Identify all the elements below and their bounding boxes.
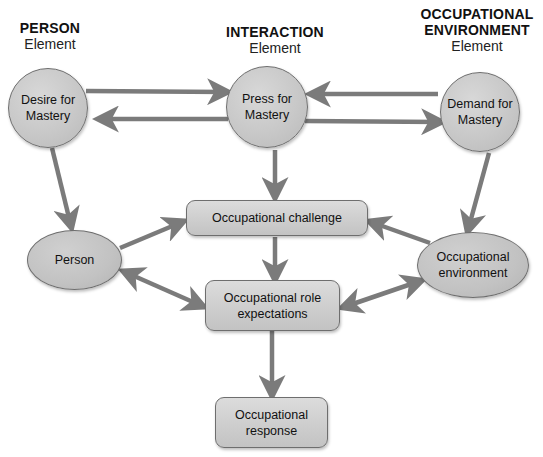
header-interaction-title: INTERACTION: [215, 24, 335, 40]
node-desire-line2: Mastery: [21, 108, 75, 124]
node-desire-line1: Desire for: [21, 92, 75, 108]
node-person-label: Person: [55, 252, 95, 268]
arrow-person-to-challenge: [120, 222, 182, 248]
node-occupational-challenge: Occupational challenge: [186, 200, 368, 236]
node-challenge-label: Occupational challenge: [212, 210, 342, 226]
node-occupational-response: Occupational response: [215, 397, 328, 448]
occupational-adaptation-diagram: PERSON Element INTERACTION Element OCCUP…: [0, 0, 543, 457]
arrow-environment-role-bidirectional: [344, 281, 420, 307]
node-environment-line2: environment: [437, 265, 510, 281]
header-interaction-subtitle: Element: [215, 40, 335, 56]
arrow-environment-to-challenge: [371, 222, 430, 243]
node-environment-line1: Occupational: [437, 249, 510, 265]
node-occupational-role-expectations: Occupational role expectations: [205, 280, 340, 331]
arrow-desire-to-person: [52, 148, 71, 226]
header-environment: OCCUPATIONAL ENVIRONMENT Element: [412, 6, 542, 54]
node-role-line2: expectations: [224, 306, 321, 322]
arrow-person-role-bidirectional: [125, 272, 202, 306]
header-person: PERSON Element: [10, 20, 90, 52]
node-press-line2: Mastery: [242, 107, 292, 123]
node-press-line1: Press for: [242, 91, 292, 107]
node-occupational-environment: Occupational environment: [417, 232, 529, 298]
arrow-desire-to-press: [86, 91, 226, 92]
node-response-line1: Occupational: [235, 407, 308, 423]
header-environment-subtitle: Element: [412, 38, 542, 54]
node-person: Person: [27, 230, 122, 290]
node-demand-for-mastery: Demand for Mastery: [440, 72, 520, 152]
header-person-title: PERSON: [10, 20, 90, 36]
header-environment-title-line1: OCCUPATIONAL: [412, 6, 542, 22]
arrow-press-to-demand: [305, 121, 440, 122]
node-desire-for-mastery: Desire for Mastery: [8, 68, 88, 148]
node-demand-line1: Demand for: [447, 96, 512, 112]
node-role-line1: Occupational role: [224, 290, 321, 306]
node-response-line2: response: [235, 423, 308, 439]
header-interaction: INTERACTION Element: [215, 24, 335, 56]
header-person-subtitle: Element: [10, 36, 90, 52]
node-press-for-mastery: Press for Mastery: [226, 66, 308, 148]
node-demand-line2: Mastery: [447, 112, 512, 128]
header-environment-title-line2: ENVIRONMENT: [412, 22, 542, 38]
arrow-demand-to-environment: [468, 153, 489, 230]
